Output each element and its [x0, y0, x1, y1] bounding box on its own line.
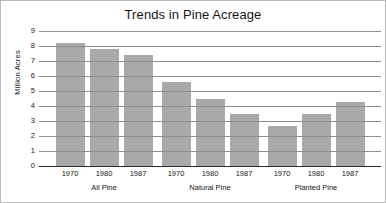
x-tick-label: 1987 [130, 169, 147, 178]
bar [196, 99, 225, 167]
x-axis-group-labels: All PineNatural PinePlanted Pine [39, 183, 381, 195]
y-tick-label: 1 [31, 147, 35, 155]
x-group-label: Planted Pine [295, 183, 338, 192]
y-tick-label: 3 [31, 117, 35, 125]
y-tick-label: 6 [31, 72, 35, 80]
plot-area [39, 31, 381, 166]
x-tick-label: 1980 [202, 169, 219, 178]
x-tick-label: 1970 [168, 169, 185, 178]
y-tick-label: 4 [31, 102, 35, 110]
bar [268, 126, 297, 166]
bar [90, 49, 119, 166]
bars-layer [39, 31, 381, 166]
x-group-label: Natural Pine [189, 183, 230, 192]
y-tick-label: 9 [31, 27, 35, 35]
y-axis-tick-labels: 0123456789 [19, 31, 35, 166]
x-tick-label: 1970 [62, 169, 79, 178]
bar [162, 82, 191, 166]
bar [336, 102, 365, 166]
y-tick-label: 2 [31, 132, 35, 140]
bar [124, 55, 153, 166]
x-axis-tick-labels: 197019801987197019801987197019801987 [39, 169, 381, 181]
y-tick-label: 0 [31, 162, 35, 170]
bar [302, 114, 331, 166]
bar [56, 43, 85, 166]
x-group-label: All Pine [91, 183, 116, 192]
x-tick-label: 1980 [96, 169, 113, 178]
x-tick-label: 1987 [236, 169, 253, 178]
bar [230, 114, 259, 167]
x-axis-line [39, 166, 381, 167]
x-tick-label: 1970 [274, 169, 291, 178]
y-tick-label: 7 [31, 57, 35, 65]
y-tick-label: 8 [31, 42, 35, 50]
chart-figure: Trends in Pine Acreage Million Acres 012… [0, 0, 386, 203]
x-tick-label: 1980 [308, 169, 325, 178]
chart-title: Trends in Pine Acreage [1, 7, 385, 22]
x-tick-label: 1987 [342, 169, 359, 178]
y-tick-label: 5 [31, 87, 35, 95]
